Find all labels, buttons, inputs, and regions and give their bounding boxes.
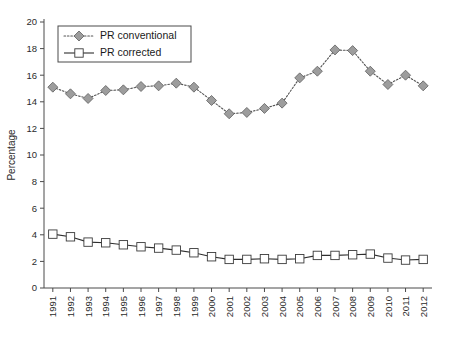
data-point-marker — [401, 70, 411, 80]
data-point-marker — [101, 85, 111, 95]
data-point-marker — [243, 255, 251, 263]
y-tick-label: 8 — [32, 176, 37, 187]
data-point-marker — [277, 98, 287, 108]
data-point-marker — [384, 254, 392, 262]
x-tick-label: 1994 — [100, 296, 111, 317]
data-point-marker — [418, 81, 428, 91]
x-tick-label: 2001 — [224, 296, 235, 317]
y-tick-label: 6 — [32, 203, 37, 214]
x-tick-label: 2006 — [312, 296, 323, 317]
y-axis-title: Percentage — [6, 129, 17, 181]
data-point-marker — [190, 249, 198, 257]
x-axis: 1991199219931994199519961997199819992000… — [44, 288, 432, 317]
x-tick-label: 1997 — [153, 296, 164, 317]
x-tick-label: 2012 — [418, 296, 429, 317]
data-point-marker — [207, 253, 215, 261]
data-point-marker — [419, 255, 427, 263]
x-tick-label: 2003 — [259, 296, 270, 317]
data-point-marker — [102, 239, 110, 247]
data-point-marker — [348, 251, 356, 259]
data-point-marker — [278, 255, 286, 263]
y-tick-label: 14 — [26, 96, 37, 107]
chart-canvas: 02468101214161820 1991199219931994199519… — [0, 0, 452, 338]
data-point-marker — [65, 89, 75, 99]
data-point-marker — [260, 255, 268, 263]
x-tick-label: 2005 — [294, 296, 305, 317]
data-point-marker — [366, 250, 374, 258]
x-tick-label: 2007 — [330, 296, 341, 317]
y-axis: 02468101214161820 — [26, 16, 44, 293]
data-point-marker — [83, 93, 93, 103]
data-point-marker — [118, 85, 128, 95]
x-tick-label: 1991 — [47, 296, 58, 317]
data-point-marker — [224, 109, 234, 119]
y-tick-label: 16 — [26, 70, 37, 81]
x-tick-label: 2000 — [206, 296, 217, 317]
y-tick-label: 10 — [26, 149, 37, 160]
x-tick-label: 2004 — [277, 296, 288, 317]
data-point-marker — [401, 256, 409, 264]
data-point-marker — [48, 82, 58, 92]
data-point-marker — [119, 241, 127, 249]
data-point-marker — [225, 255, 233, 263]
y-tick-label: 18 — [26, 43, 37, 54]
x-tick-label: 1998 — [171, 296, 182, 317]
y-tick-label: 20 — [26, 16, 37, 27]
chart-legend: PR conventionalPR corrected — [58, 26, 191, 62]
data-point-marker — [154, 244, 162, 252]
data-point-marker — [137, 243, 145, 251]
data-point-marker — [172, 246, 180, 254]
x-tick-label: 1995 — [118, 296, 129, 317]
data-point-marker — [84, 238, 92, 246]
x-tick-label: 1999 — [189, 296, 200, 317]
x-tick-label: 1996 — [136, 296, 147, 317]
legend-label: PR conventional — [100, 29, 176, 41]
x-tick-label: 2009 — [365, 296, 376, 317]
data-point-marker — [66, 233, 74, 241]
data-point-marker — [313, 251, 321, 259]
x-tick-label: 2010 — [383, 296, 394, 317]
data-point-marker — [154, 81, 164, 91]
x-tick-label: 2002 — [241, 296, 252, 317]
data-point-marker — [295, 73, 305, 83]
y-tick-label: 12 — [26, 123, 37, 134]
legend-label: PR corrected — [100, 46, 161, 58]
data-point-marker — [207, 95, 217, 105]
data-point-marker — [171, 78, 181, 88]
data-point-marker — [383, 80, 393, 90]
data-series-group — [48, 45, 428, 264]
data-point-marker — [312, 66, 322, 76]
data-point-marker — [331, 251, 339, 259]
x-tick-label: 1992 — [65, 296, 76, 317]
data-point-marker — [259, 103, 269, 113]
x-tick-label: 2011 — [400, 296, 411, 316]
y-tick-label: 4 — [32, 229, 37, 240]
data-point-marker — [136, 82, 146, 92]
x-tick-label: 1993 — [83, 296, 94, 317]
legend-marker-sample — [75, 49, 83, 57]
data-point-marker — [189, 82, 199, 92]
data-point-marker — [242, 107, 252, 117]
data-point-marker — [49, 230, 57, 238]
x-tick-label: 2008 — [347, 296, 358, 317]
data-point-marker — [296, 255, 304, 263]
y-tick-label: 2 — [32, 256, 37, 267]
chart-figure: 02468101214161820 1991199219931994199519… — [0, 0, 452, 338]
y-tick-label: 0 — [32, 282, 37, 293]
